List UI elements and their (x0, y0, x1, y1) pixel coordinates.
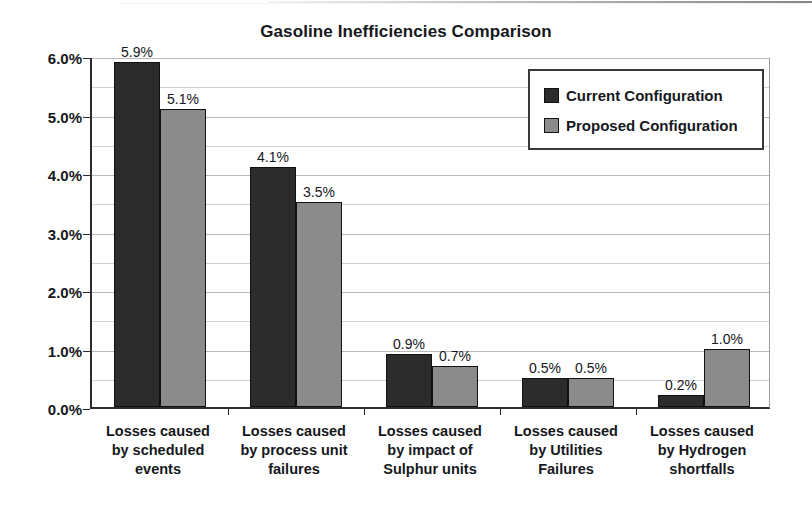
legend-item: Proposed Configuration (544, 110, 762, 140)
y-axis-tick-label: 1.0% (20, 342, 82, 359)
x-axis-tick-mark (228, 407, 229, 415)
bar-proposed: 0.7% (432, 366, 478, 407)
y-axis-labels: 0.0%1.0%2.0%3.0%4.0%5.0%6.0% (16, 58, 82, 409)
y-axis-tick-mark (83, 175, 90, 176)
bar-current: 0.5% (522, 378, 568, 407)
y-axis-tick-mark (83, 351, 90, 352)
category-label-line: Failures (498, 460, 634, 479)
bar-value-label: 0.7% (439, 348, 471, 364)
category-label-line: shortfalls (634, 460, 770, 479)
y-axis-tick-label: 0.0% (20, 401, 82, 418)
y-axis-tick-mark (83, 409, 90, 410)
category-label-line: failures (226, 460, 362, 479)
y-axis-tick-mark (83, 234, 90, 235)
category-label-line: Losses caused (362, 422, 498, 441)
bar-value-label: 1.0% (711, 331, 743, 347)
y-axis-tick-label: 4.0% (20, 167, 82, 184)
x-axis-category-label: Losses causedby UtilitiesFailures (498, 422, 634, 479)
x-axis-category-label: Losses causedby impact ofSulphur units (362, 422, 498, 479)
category-label-line: Sulphur units (362, 460, 498, 479)
y-axis-tick-label: 6.0% (20, 50, 82, 67)
x-axis-tick-mark (500, 407, 501, 415)
chart-title: Gasoline Inefficiencies Comparison (0, 22, 812, 42)
bar-proposed: 0.5% (568, 378, 614, 407)
bar-proposed: 1.0% (704, 349, 750, 408)
legend-swatch-icon (544, 118, 559, 133)
category-label-line: by scheduled (90, 441, 226, 460)
category-label-line: by Hydrogen (634, 441, 770, 460)
y-axis-tick-label: 2.0% (20, 284, 82, 301)
bar-value-label: 0.2% (665, 377, 697, 393)
bar-value-label: 5.1% (167, 91, 199, 107)
category-label-line: Losses caused (498, 422, 634, 441)
gridline-major (92, 58, 769, 59)
y-axis-tick-label: 5.0% (20, 108, 82, 125)
category-label-line: Losses caused (90, 422, 226, 441)
category-label-line: by Utilities (498, 441, 634, 460)
legend-label: Current Configuration (566, 87, 723, 104)
y-axis-tick-mark (83, 117, 90, 118)
bar-proposed: 5.1% (160, 109, 206, 407)
scan-artifact-line-secondary (120, 3, 810, 4)
bar-value-label: 3.5% (303, 184, 335, 200)
category-label-line: Losses caused (226, 422, 362, 441)
x-axis-category-label: Losses causedby process unitfailures (226, 422, 362, 479)
category-label-line: by impact of (362, 441, 498, 460)
legend-swatch-icon (544, 88, 559, 103)
x-axis-category-labels: Losses causedby scheduledeventsLosses ca… (90, 422, 770, 492)
bar-proposed: 3.5% (296, 202, 342, 407)
y-axis-tick-mark (83, 292, 90, 293)
y-axis-tick-mark (83, 58, 90, 59)
bar-current: 0.2% (658, 395, 704, 407)
legend-item: Current Configuration (544, 80, 762, 110)
chart-container: Gasoline Inefficiencies Comparison 0.0%1… (0, 0, 812, 505)
x-axis-category-label: Losses causedby Hydrogenshortfalls (634, 422, 770, 479)
bar-current: 4.1% (250, 167, 296, 407)
category-label-line: Losses caused (634, 422, 770, 441)
bar-value-label: 4.1% (257, 149, 289, 165)
bar-value-label: 0.5% (529, 360, 561, 376)
category-label-line: events (90, 460, 226, 479)
y-axis-tick-label: 3.0% (20, 225, 82, 242)
x-axis-tick-mark (636, 407, 637, 415)
legend-label: Proposed Configuration (566, 117, 738, 134)
x-axis-category-label: Losses causedby scheduledevents (90, 422, 226, 479)
chart-legend: Current ConfigurationProposed Configurat… (528, 69, 764, 150)
bar-value-label: 0.9% (393, 336, 425, 352)
category-label-line: by process unit (226, 441, 362, 460)
bar-value-label: 0.5% (575, 360, 607, 376)
bar-current: 5.9% (114, 62, 160, 407)
bar-value-label: 5.9% (121, 44, 153, 60)
x-axis-tick-mark (364, 407, 365, 415)
bar-current: 0.9% (386, 354, 432, 407)
